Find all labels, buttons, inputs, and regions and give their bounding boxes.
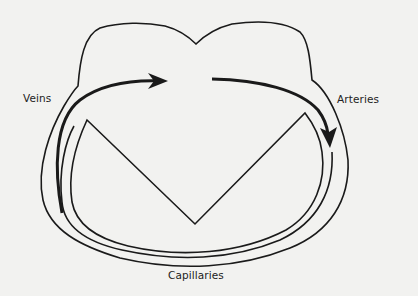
veins-flow-arrow: [57, 81, 160, 213]
circulation-diagram: Veins Arteries Capillaries: [0, 0, 418, 296]
arteries-label: Arteries: [337, 93, 379, 105]
veins-label: Veins: [23, 92, 51, 104]
inner-heart-outline: [71, 113, 323, 253]
diagram-canvas: [0, 0, 418, 296]
outer-loop-outline: [41, 22, 348, 266]
capillaries-label: Capillaries: [168, 269, 224, 281]
arteries-flow-arrow: [212, 79, 328, 134]
inner-loop-ring: [61, 126, 332, 257]
